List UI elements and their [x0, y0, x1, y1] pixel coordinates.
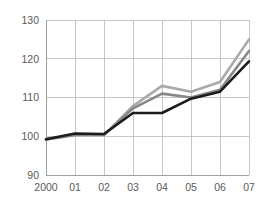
y-axis-tick-labels: 90100110120130	[21, 14, 39, 181]
y-axis-tick-label: 120	[21, 53, 39, 65]
y-axis-tick-label: 100	[21, 130, 39, 142]
data-series-group	[46, 39, 249, 139]
x-axis-tick-label: 01	[69, 181, 81, 193]
x-axis-tick-label: 2000	[34, 181, 58, 193]
x-axis-tick-label: 03	[127, 181, 139, 193]
x-axis-tick-label: 04	[156, 181, 168, 193]
x-axis-tick-label: 05	[185, 181, 197, 193]
x-axis-tick-label: 02	[98, 181, 110, 193]
chart-canvas: 90100110120130 200001020304050607	[0, 0, 265, 210]
x-axis-tick-labels: 200001020304050607	[34, 181, 255, 193]
x-axis-tick-label: 06	[214, 181, 226, 193]
x-axis-tick-label: 07	[243, 181, 255, 193]
line-chart: 90100110120130 200001020304050607	[0, 0, 265, 210]
y-axis-tick-label: 110	[22, 91, 39, 103]
y-axis-tick-label: 90	[27, 169, 39, 181]
y-axis-tick-label: 130	[21, 14, 39, 26]
